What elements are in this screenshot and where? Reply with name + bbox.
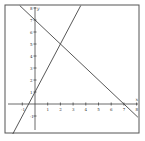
x-tick-label: 4: [85, 107, 88, 112]
x-tick-label: 5: [97, 107, 100, 112]
x-tick-label: 8: [135, 107, 138, 112]
x-tick-label: 3: [72, 107, 75, 112]
y-axis-label: y: [36, 6, 40, 11]
y-tick-label: 1: [30, 90, 33, 95]
x-axis-label: x: [136, 97, 139, 102]
plot-frame: [5, 5, 139, 133]
x-tick-label: -1: [21, 107, 25, 112]
line-graph: -112345678-112345678 x y: [0, 0, 145, 141]
y-tick-label: -1: [30, 114, 34, 119]
x-tick-label: 1: [47, 107, 50, 112]
